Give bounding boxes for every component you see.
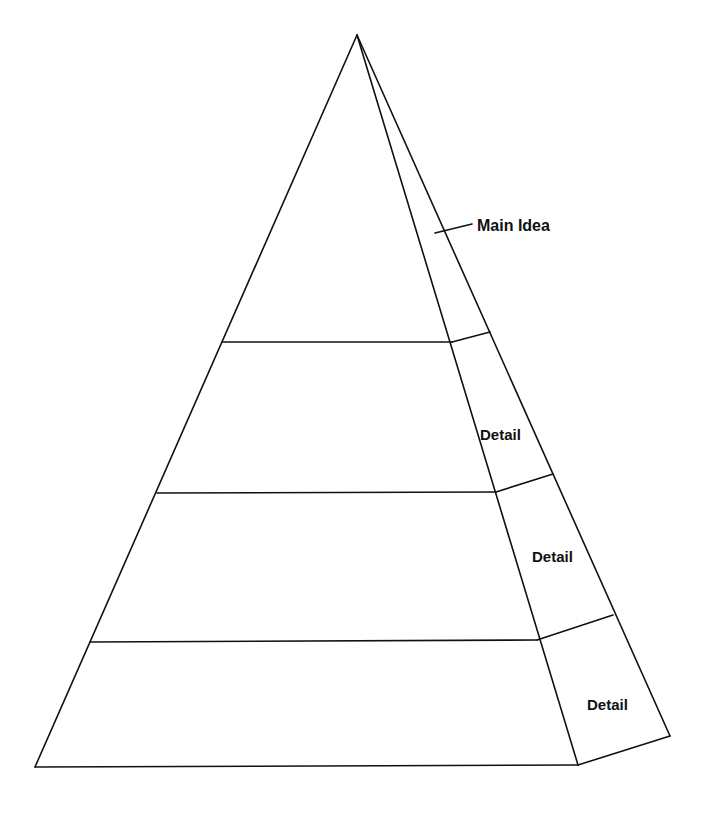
label-detail-3: Detail — [587, 696, 628, 713]
main-idea-leader-line — [435, 224, 472, 233]
pyramid-diagram: Main Idea Detail Detail Detail — [0, 0, 706, 816]
pyramid-base-front — [35, 765, 578, 767]
label-detail-1: Detail — [480, 426, 521, 443]
pyramid-base-side — [578, 736, 670, 765]
pyramid-front-right-edge — [357, 35, 578, 765]
pyramid-left-edge — [35, 35, 357, 767]
label-main-idea: Main Idea — [477, 217, 550, 234]
label-detail-2: Detail — [532, 548, 573, 565]
pyramid-back-right-edge — [357, 35, 670, 736]
